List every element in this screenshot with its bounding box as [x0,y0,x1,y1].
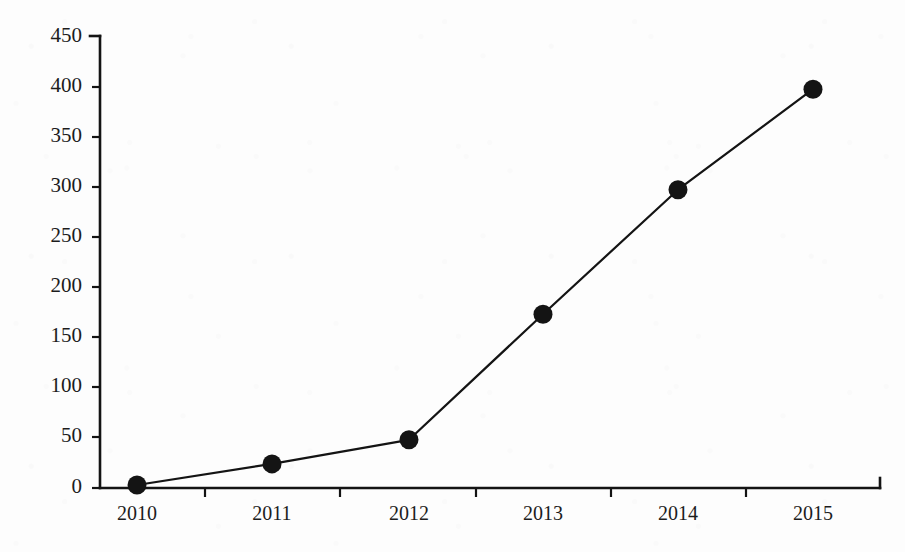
y-tick-labels: 450 400 350 300 250 200 150 100 50 0 [51,23,83,498]
x-axis [100,478,880,488]
x-tick-label-2010: 2010 [117,502,157,524]
y-tick-label-200: 200 [51,273,83,297]
x-tick-label-2015: 2015 [793,502,833,524]
y-tick-label-0: 0 [72,474,83,498]
data-point-2011 [263,454,282,473]
data-point-2014 [669,180,688,199]
series-line [137,89,813,485]
y-tick-label-300: 300 [51,173,83,197]
y-tick-label-250: 250 [51,223,83,247]
data-point-2015 [804,80,823,99]
y-tick-label-150: 150 [51,323,83,347]
y-tick-label-100: 100 [51,373,83,397]
data-series-group [128,80,823,495]
y-axis [90,36,100,488]
x-tick-label-2012: 2012 [389,502,429,524]
y-tick-label-400: 400 [51,73,83,97]
x-tick-marks [205,488,746,497]
x-tick-label-2011: 2011 [252,502,291,524]
x-tick-label-2014: 2014 [658,502,698,524]
series-markers [128,80,823,495]
y-tick-label-50: 50 [61,423,82,447]
x-tick-labels: 2010 2011 2012 2013 2014 2015 [117,502,833,524]
y-tick-label-350: 350 [51,123,83,147]
data-point-2013 [534,305,553,324]
data-point-2010 [128,476,147,495]
y-tick-label-450: 450 [51,23,83,47]
x-tick-label-2013: 2013 [523,502,563,524]
line-chart-plot: 450 400 350 300 250 200 150 100 50 0 201… [0,0,905,552]
data-point-2012 [400,430,419,449]
chart-figure: 450 400 350 300 250 200 150 100 50 0 201… [0,0,905,552]
